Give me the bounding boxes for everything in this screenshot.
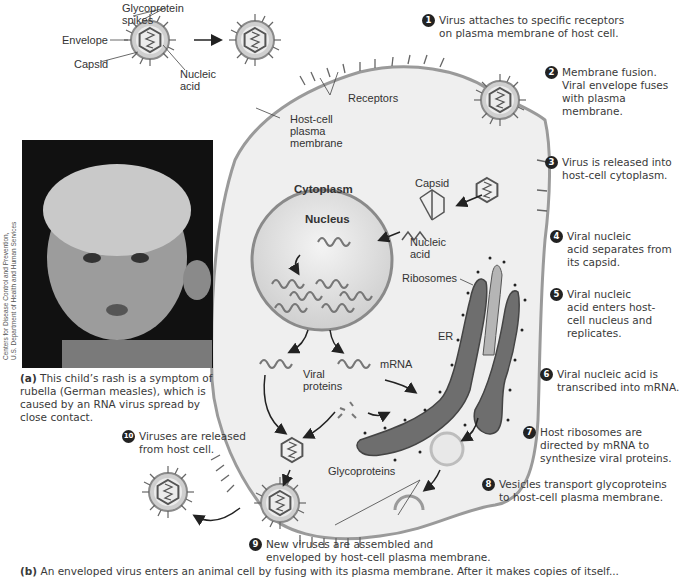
label-host-cell-membrane: Host-cell plasma membrane	[290, 113, 343, 149]
step-badge: 4	[550, 230, 563, 243]
label-mrna: mRNA	[380, 358, 412, 370]
caption-b: (b) An enveloped virus enters an animal …	[20, 565, 685, 578]
label-ribosomes: Ribosomes	[402, 272, 457, 284]
step-badge: 2	[545, 66, 558, 79]
step-text: Viral nucleic acid enters host- cell nuc…	[550, 288, 655, 340]
step-text: Membrane fusion. Viral envelope fuses wi…	[545, 66, 685, 118]
step-2: 2 Membrane fusion. Viral envelope fuses …	[545, 66, 685, 118]
step-5: 5 Viral nucleic acid enters host- cell n…	[550, 288, 655, 340]
label-capsid-released: Capsid	[415, 177, 449, 189]
step-badge: 6	[540, 368, 553, 381]
step-9: 9 New viruses are assembled and envelope…	[249, 538, 491, 564]
photo-credit: Centers for Disease Control and Preventi…	[2, 222, 18, 360]
nucleus	[252, 190, 392, 330]
step-1: 1 Virus attaches to specific receptors o…	[422, 14, 624, 40]
caption-b-marker: (b)	[20, 565, 37, 577]
step-text: Viral nucleic acid is transcribed into m…	[540, 368, 679, 394]
caption-b-text: An enveloped virus enters an animal cell…	[37, 565, 619, 577]
label-capsid: Capsid	[74, 58, 108, 70]
step-badge: 8	[482, 478, 495, 491]
label-receptors: Receptors	[348, 92, 398, 104]
label-envelope: Envelope	[62, 34, 108, 46]
virus-attaching	[229, 14, 281, 66]
caption-a-text: This child’s rash is a symptom of rubell…	[20, 372, 212, 423]
virus-assembled	[282, 438, 303, 462]
step-badge: 3	[545, 156, 558, 169]
step-text: Virus attaches to specific receptors on …	[422, 14, 624, 40]
child-rash-photo	[22, 140, 213, 368]
step-badge: 1	[422, 14, 435, 27]
step-badge: 10	[122, 430, 135, 443]
label-glycoproteins: Glycoproteins	[328, 465, 395, 477]
vesicle	[431, 433, 463, 465]
label-nucleic-acid-released: Nucleic acid	[410, 236, 446, 260]
step-badge: 9	[249, 538, 262, 551]
step-text: Virus is released into host-cell cytopla…	[545, 156, 672, 182]
step-10: 10 Viruses are released from host cell.	[122, 430, 246, 456]
step-8: 8 Vesicles transport glycoproteins to ho…	[482, 478, 667, 504]
step-6: 6 Viral nucleic acid is transcribed into…	[540, 368, 679, 394]
step-text: Vesicles transport glycoproteins to host…	[482, 478, 667, 504]
step-text: Viral nucleic acid separates from its ca…	[550, 230, 672, 269]
step-text: Viruses are released from host cell.	[122, 430, 246, 456]
label-cytoplasm: Cytoplasm	[294, 183, 353, 195]
step-text: New viruses are assembled and enveloped …	[249, 538, 491, 564]
step-badge: 7	[523, 426, 536, 439]
step-7: 7 Host ribosomes are directed by mRNA to…	[523, 426, 672, 465]
label-nucleic-acid: Nucleic acid	[180, 68, 216, 92]
label-viral-proteins: Viral proteins	[303, 368, 342, 392]
label-er: ER	[438, 330, 453, 342]
label-glycoprotein-spikes: Glycoprotein spikes	[122, 2, 184, 26]
caption-a-marker: (a)	[20, 372, 37, 384]
label-nucleus: Nucleus	[305, 213, 350, 225]
step-3: 3 Virus is released into host-cell cytop…	[545, 156, 672, 182]
step-4: 4 Viral nucleic acid separates from its …	[550, 230, 672, 269]
caption-a: (a) This child’s rash is a symptom of ru…	[20, 372, 220, 424]
capsid-released	[477, 178, 498, 202]
step-badge: 5	[550, 288, 563, 301]
virus-released	[142, 466, 194, 518]
step-text: Host ribosomes are directed by mRNA to s…	[523, 426, 672, 465]
